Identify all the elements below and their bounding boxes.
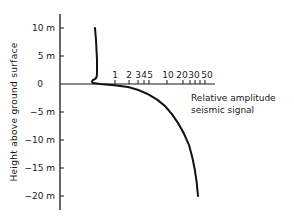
y-tick-neg10: −10 m — [24, 135, 55, 145]
x-tick-labels: 1 2 3 4 5 10 20 30 50 — [112, 70, 213, 80]
x-tick-1: 1 — [112, 70, 118, 80]
y-tick-labels: 10 m 5 m 0 −5 m −10 m −15 m −20 m — [24, 23, 55, 201]
x-tick-3: 3 — [135, 70, 141, 80]
x-tick-10: 10 — [162, 70, 174, 80]
y-tick-0: 0 — [37, 79, 43, 89]
x-tick-30: 30 — [188, 70, 200, 80]
y-tick-neg15: −15 m — [24, 163, 55, 173]
x-tick-2: 2 — [126, 70, 132, 80]
x-axis-title-line2: seismic signal — [191, 105, 254, 115]
y-tick-5: 5 m — [38, 51, 55, 61]
y-axis-title: Height above ground surface — [9, 42, 19, 181]
chart: 10 m 5 m 0 −5 m −10 m −15 m −20 m Height… — [0, 0, 294, 220]
y-tick-neg5: −5 m — [30, 107, 55, 117]
x-tick-50: 50 — [201, 70, 213, 80]
y-tick-neg20: −20 m — [24, 191, 55, 201]
amplitude-curve — [92, 28, 198, 196]
y-tick-10: 10 m — [32, 23, 55, 33]
x-tick-20: 20 — [176, 70, 188, 80]
x-axis-title-line1: Relative amplitude — [191, 93, 276, 103]
x-tick-5: 5 — [147, 70, 153, 80]
